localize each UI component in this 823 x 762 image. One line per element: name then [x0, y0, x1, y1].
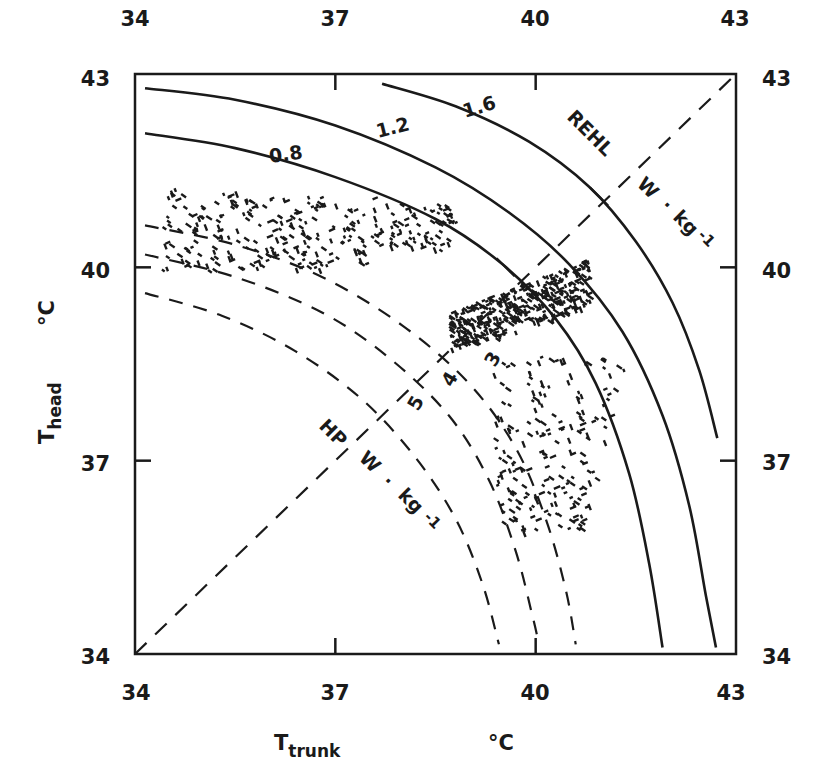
scatter-point: [464, 321, 466, 325]
scatter-point: [435, 235, 440, 239]
scatter-point: [499, 305, 502, 307]
scatter-point: [524, 496, 528, 498]
scatter-point: [530, 516, 535, 518]
scatter-point: [493, 332, 496, 333]
scatter-point: [561, 301, 563, 306]
scatter-point: [213, 269, 218, 272]
scatter-point: [515, 331, 517, 335]
scatter-point: [344, 228, 346, 232]
scatter-point: [486, 304, 489, 305]
scatter-point: [517, 297, 522, 299]
scatter-point: [494, 328, 499, 330]
chart-canvas: 34 37 40 43 34 37 40 43 43 40 37 34 43 4…: [0, 0, 823, 762]
scatter-point: [525, 492, 529, 495]
scatter-point: [555, 314, 561, 317]
scatter-point: [320, 197, 324, 199]
scatter-point: [579, 265, 582, 267]
scatter-point: [532, 506, 535, 508]
scatter-point: [511, 363, 516, 366]
scatter-point: [582, 519, 587, 521]
scatter-point: [311, 206, 314, 207]
hp-unit-exponent: -1: [420, 508, 445, 533]
scatter-point: [256, 204, 258, 209]
scatter-point: [494, 438, 499, 441]
scatter-point: [573, 519, 578, 521]
scatter-point: [607, 398, 610, 400]
scatter-point: [564, 291, 567, 293]
scatter-point: [565, 284, 566, 288]
scatter-point: [228, 251, 229, 255]
scatter-point: [294, 246, 299, 248]
scatter-point: [580, 488, 583, 489]
scatter-point: [544, 284, 547, 285]
scatter-point: [588, 296, 594, 300]
scatter-point: [607, 393, 611, 395]
scatter-point: [571, 296, 576, 298]
scatter-point: [457, 327, 462, 329]
scatter-point: [506, 387, 511, 391]
scatter-point: [580, 461, 584, 464]
scatter-point: [580, 429, 585, 431]
scatter-point: [390, 238, 393, 240]
scatter-point: [549, 476, 554, 480]
scatter-point: [570, 483, 575, 486]
scatter-point: [394, 244, 399, 247]
scatter-point: [502, 329, 507, 331]
scatter-point: [498, 480, 500, 484]
x-bottom-tick-label-37: 37: [320, 681, 349, 705]
scatter-point: [487, 313, 491, 315]
scatter-point: [247, 212, 251, 215]
curves-layer: [135, 74, 736, 654]
scatter-point: [405, 224, 409, 226]
scatter-point: [349, 236, 352, 238]
scatter-point: [580, 418, 585, 421]
y-axis-label: Thead: [35, 382, 65, 444]
scatter-point: [582, 267, 586, 269]
scatter-point: [540, 421, 546, 425]
scatter-point: [213, 235, 218, 239]
scatter-point: [542, 485, 545, 487]
scatter-point: [246, 199, 248, 203]
scatter-point: [390, 245, 392, 251]
y-axis-unit: °C: [35, 300, 59, 326]
scatter-point: [270, 199, 273, 200]
scatter-point: [531, 400, 534, 402]
scatter-point: [411, 246, 413, 252]
scatter-point: [266, 260, 269, 261]
scatter-point: [567, 293, 569, 297]
scatter-point: [430, 220, 435, 223]
scatter-point: [330, 239, 332, 244]
scatter-point: [515, 317, 519, 319]
scatter-point: [444, 213, 448, 216]
scatter-point: [231, 206, 235, 209]
scatter-point: [545, 298, 549, 301]
y-right-tick-label-37: 37: [762, 451, 791, 475]
scatter-point: [214, 256, 218, 259]
scatter-point: [514, 304, 517, 306]
scatter-point: [391, 226, 392, 229]
scatter-point: [535, 419, 540, 423]
scatter-point: [533, 321, 535, 326]
scatter-point: [499, 310, 502, 312]
scatter-point: [307, 266, 312, 269]
scatter-point: [555, 441, 559, 444]
scatter-point: [177, 254, 182, 258]
scatter-point: [329, 228, 335, 231]
scatter-point: [362, 214, 365, 215]
scatter-point: [284, 249, 285, 252]
rehl-curve-1.6: [382, 84, 717, 438]
scatter-point: [215, 262, 220, 266]
scatter-point: [514, 295, 516, 300]
scatter-point: [286, 219, 292, 222]
x-axis-label: Ttrunk: [274, 731, 341, 761]
scatter-point: [527, 362, 532, 365]
scatter-point: [529, 377, 533, 379]
scatter-point: [539, 320, 543, 322]
scatter-point: [162, 270, 165, 272]
scatter-point: [539, 304, 541, 308]
scatter-point: [499, 298, 502, 300]
x-top-tick-label-37: 37: [320, 7, 349, 31]
x-axis-label-sub: trunk: [288, 741, 341, 761]
scatter-point: [493, 373, 495, 378]
scatter-point: [513, 478, 517, 481]
